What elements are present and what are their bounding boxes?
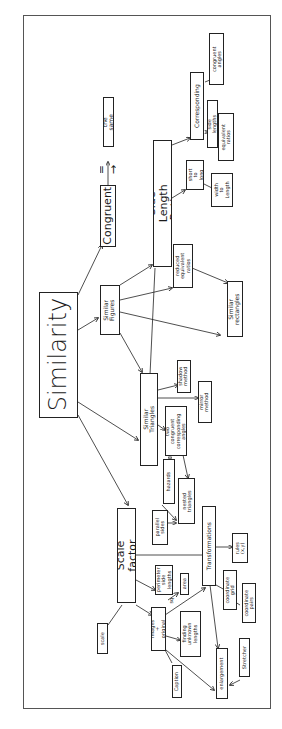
node-label: two congruent corresponding angles [166,413,187,449]
node-label: sq [169,598,174,604]
node-hazards: hazards [163,459,175,504]
node-label: parallel sides [155,518,166,537]
node-side-length-ratios: Side Length Ratios [153,140,172,267]
node-nested-triangles: nested triangles [178,478,195,524]
node-caption: Caption [172,665,182,698]
node-rules-xy: rules (x,y) [232,533,248,563]
node-short-to-long: short to long [186,160,204,190]
node-label: images + original [151,620,166,639]
node-scale-factor: Scale factor [117,508,136,603]
node-mirror-method: mirror method [198,381,212,423]
node-stretcher: Stretcher [239,638,250,677]
node-label: side lengths [207,115,218,134]
node-label: hazards [166,472,171,492]
node-label: rules (x,y) [235,542,246,554]
node-label: reduced equivalent ratios [175,253,191,279]
node-label: mirror method [200,392,211,411]
node-transformations: Transformations [202,506,216,586]
node-label: Scale factor [117,539,136,571]
edge-label-sq: sq [168,596,176,606]
node-label: short to long [187,169,203,182]
node-corresponding: Corresponding [190,72,204,140]
node-label: finding unknown lengths [183,623,199,646]
node-similar-rectangles: Similar rectangles [227,281,243,337]
node-label: equivalent ratios [221,124,232,150]
node-coordinate-pairs: coordinate pairs [242,583,256,623]
node-shadow-method: shadow method [177,360,191,393]
node-label: Corresponding [194,84,200,128]
node-perimeter-side-lengths: perimeter side lengths [155,565,173,595]
node-area: area [180,573,189,595]
node-similar-figures: Similar Figures [100,285,120,335]
node-congruent-equals: = → [100,155,116,185]
node-width-to-length: width to Length [211,173,233,207]
node-the-same: the same [103,97,114,147]
node-label: Similar Triangles [143,406,156,433]
node-label: = → [100,162,116,178]
node-label: Similar Figures [104,299,117,320]
node-label: Side Length Ratios [153,185,172,223]
node-enlargement: enlargement [216,648,228,699]
node-congruent-angles: congruent angles [209,33,224,85]
node-label: enlargement [219,658,224,690]
node-label: area [182,578,187,589]
node-equivalent-ratios: equivalent ratios [218,113,234,161]
node-parallel-sides: parallel sides [152,510,168,545]
node-label: scale [100,632,105,645]
node-coordinate-grid: coordinate grid [223,570,237,610]
node-label: perimeter side lengths [156,568,172,593]
node-label: width to Length [214,181,230,198]
node-side-lengths: side lengths [207,100,218,148]
node-label: the same [103,114,114,130]
node-label: congruent angles [211,46,222,72]
node-label: coordinate pairs [244,590,255,617]
node-label: Stretcher [242,646,247,669]
node-images-original: images + original [151,607,166,651]
node-label: Transformations [206,522,212,570]
node-similarity: Similarity [39,292,78,418]
node-reduced-equivalent-ratios: reduced equivalent ratios [173,244,193,288]
node-label: Similarity [46,298,71,411]
node-scale: scale [97,623,108,654]
node-congruent: Congruent [100,185,116,247]
node-label: shadow method [179,367,190,386]
node-similar-triangles: Similar Triangles [140,373,158,466]
node-finding-unknown-lengths: finding unknown lengths [180,611,201,657]
node-label: nested triangles [181,490,192,512]
node-two-congruent-corresponding-angles: two congruent corresponding angles [165,406,187,456]
node-label: Similar rectangles [229,293,242,324]
node-label: Caption [174,672,179,691]
node-label: coordinate grid [225,577,236,604]
node-label: Congruent [102,187,114,245]
